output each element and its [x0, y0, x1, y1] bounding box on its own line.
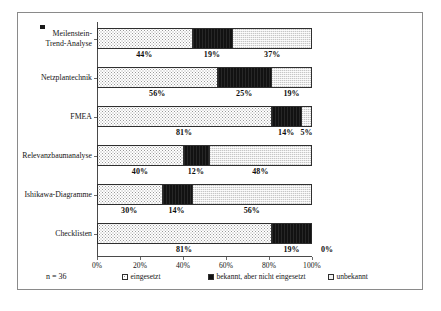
bar-segment[interactable]	[162, 184, 192, 205]
bar-row: FMEA81%14%5%	[97, 106, 312, 127]
value-label: 0%	[321, 245, 333, 254]
x-tick	[269, 257, 270, 260]
bar-segment[interactable]	[97, 106, 271, 127]
value-label: 40%	[132, 167, 148, 176]
value-label: 14%	[168, 206, 184, 215]
legend-swatch-icon	[208, 274, 214, 280]
bar-row: Meilenstein-Trend-Analyse44%19%37%	[97, 28, 312, 49]
category-label: Relevanzbaumanalyse	[22, 151, 92, 161]
value-label: 12%	[188, 167, 204, 176]
legend-item[interactable]: unbekannt	[328, 272, 368, 281]
bar-segment[interactable]	[232, 28, 312, 49]
value-label: 19%	[283, 245, 299, 254]
value-label: 48%	[252, 167, 268, 176]
x-tick	[140, 257, 141, 260]
category-label-line: Meilenstein-	[46, 29, 93, 39]
legend-item[interactable]: bekannt, aber nicht eingesetzt	[208, 272, 306, 281]
value-label: 30%	[121, 206, 137, 215]
bar-segment[interactable]	[271, 223, 312, 244]
chart-footer: n = 36 eingesetztbekannt, aber nicht ein…	[18, 269, 424, 289]
value-label: 37%	[264, 50, 280, 59]
value-label: 5%	[301, 128, 313, 137]
legend-item[interactable]: eingesetzt	[122, 272, 161, 281]
stacked-bar[interactable]	[97, 28, 312, 49]
bar-segment[interactable]	[97, 67, 217, 88]
figure-frame: Meilenstein-Trend-Analyse44%19%37%Netzpl…	[17, 12, 423, 290]
bar-row: Netzplantechnik56%25%19%	[97, 67, 312, 88]
bar-segment[interactable]	[217, 67, 271, 88]
value-label: 56%	[244, 206, 260, 215]
sample-size-label: n = 36	[46, 272, 67, 281]
bar-segment[interactable]	[97, 223, 271, 244]
value-label: 44%	[136, 50, 152, 59]
bar-segment[interactable]	[183, 145, 209, 166]
corner-marker-icon	[40, 25, 45, 29]
category-label-line: Ishikawa-Diagramme	[24, 190, 92, 200]
stacked-bar[interactable]	[97, 223, 312, 244]
value-label: 56%	[149, 89, 165, 98]
category-label-line: Trend-Analyse	[46, 39, 93, 49]
value-label: 14%	[278, 128, 294, 137]
y-axis-line	[97, 22, 98, 256]
stacked-bar[interactable]	[97, 145, 312, 166]
bar-segment[interactable]	[209, 145, 312, 166]
x-tick	[226, 257, 227, 260]
x-tick	[183, 257, 184, 260]
bar-segment[interactable]	[97, 145, 183, 166]
category-label: Netzplantechnik	[41, 73, 92, 83]
chart-plot-area: Meilenstein-Trend-Analyse44%19%37%Netzpl…	[97, 22, 312, 257]
x-tick	[312, 257, 313, 260]
bar-segment[interactable]	[271, 67, 312, 88]
value-label: 81%	[176, 245, 192, 254]
category-label-line: Relevanzbaumanalyse	[22, 151, 92, 161]
legend-swatch-icon	[122, 274, 128, 280]
stacked-bar[interactable]	[97, 184, 312, 205]
legend-label: eingesetzt	[131, 272, 161, 281]
bar-row: Relevanzbaumanalyse40%12%48%	[97, 145, 312, 166]
bar-segment[interactable]	[97, 28, 192, 49]
category-label: FMEA	[70, 112, 92, 122]
bar-segment[interactable]	[301, 106, 312, 127]
stacked-bar[interactable]	[97, 106, 312, 127]
bar-segment[interactable]	[97, 184, 162, 205]
category-label: Checklisten	[55, 229, 92, 239]
category-label: Meilenstein-Trend-Analyse	[46, 29, 93, 48]
legend-label: unbekannt	[337, 272, 368, 281]
value-label: 19%	[204, 50, 220, 59]
bar-segment[interactable]	[192, 28, 233, 49]
category-label-line: FMEA	[70, 112, 92, 122]
legend-label: bekannt, aber nicht eingesetzt	[217, 272, 306, 281]
bar-row: Checklisten81%19%0%	[97, 223, 312, 244]
bar-row: Ishikawa-Diagramme30%14%56%	[97, 184, 312, 205]
value-label: 81%	[176, 128, 192, 137]
bar-segment[interactable]	[192, 184, 312, 205]
value-label: 25%	[236, 89, 252, 98]
category-label-line: Netzplantechnik	[41, 73, 92, 83]
category-label: Ishikawa-Diagramme	[24, 190, 92, 200]
value-label: 19%	[283, 89, 299, 98]
bar-segment[interactable]	[271, 106, 301, 127]
stacked-bar[interactable]	[97, 67, 312, 88]
x-tick	[97, 257, 98, 260]
legend-swatch-icon	[328, 274, 334, 280]
category-label-line: Checklisten	[55, 229, 92, 239]
x-axis-line	[97, 256, 312, 257]
